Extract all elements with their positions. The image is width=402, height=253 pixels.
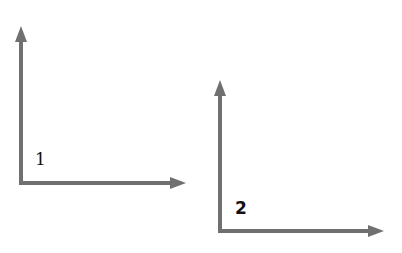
axis-label-2: 2 (235, 200, 247, 217)
diagram-canvas (0, 0, 402, 253)
arrow-right-icon (368, 225, 384, 237)
arrow-up-icon (15, 26, 27, 42)
arrow-up-icon (214, 80, 226, 96)
arrow-right-icon (170, 177, 186, 189)
axis-label-1: 1 (35, 151, 46, 168)
